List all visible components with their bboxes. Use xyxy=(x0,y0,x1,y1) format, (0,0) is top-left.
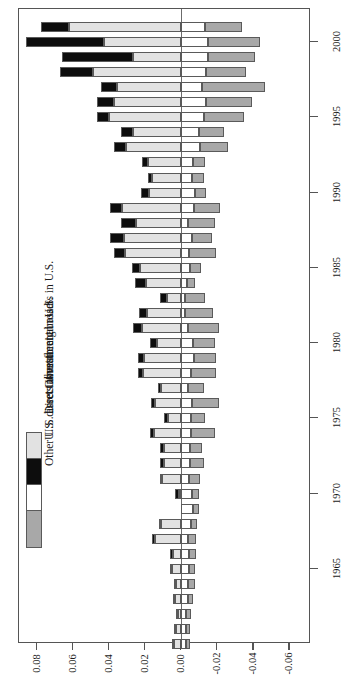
bar-segment xyxy=(192,233,212,243)
bar-segment xyxy=(181,52,208,62)
category-axis-tick xyxy=(310,41,318,42)
bar-segment xyxy=(170,549,173,559)
bar-segment xyxy=(194,203,220,213)
bar-segment xyxy=(195,188,207,198)
bar-segment xyxy=(154,428,181,438)
bar-segment xyxy=(191,413,205,423)
bar-segment xyxy=(191,428,214,438)
bar-segment xyxy=(147,308,181,318)
bar-segment xyxy=(190,458,204,468)
bar-segment xyxy=(190,263,201,273)
bar-segment xyxy=(181,263,190,273)
plot-frame xyxy=(18,8,310,643)
bar-segment xyxy=(185,293,205,303)
bar-segment xyxy=(121,127,133,137)
bar-segment xyxy=(205,22,242,32)
bar-segment xyxy=(69,22,182,32)
bar-row xyxy=(19,173,309,183)
bar-segment xyxy=(109,112,181,122)
category-axis-label: 1985 xyxy=(330,247,343,287)
bar-segment xyxy=(204,112,245,122)
bar-row xyxy=(19,218,309,228)
bar-segment xyxy=(167,293,181,303)
bar-segment xyxy=(193,157,205,167)
bar-segment xyxy=(199,127,224,137)
bar-segment xyxy=(174,579,176,589)
category-axis-tick xyxy=(310,342,318,343)
bar-segment xyxy=(181,112,204,122)
bar-segment xyxy=(155,534,181,544)
bar-segment xyxy=(194,353,217,363)
bar-segment xyxy=(181,67,205,77)
bar-row xyxy=(19,278,309,288)
bar-segment xyxy=(176,609,178,619)
bar-segment xyxy=(173,594,175,604)
bar-segment xyxy=(181,82,202,92)
category-axis-tick xyxy=(310,267,318,268)
bar-segment xyxy=(189,564,194,574)
bar-segment xyxy=(121,218,136,228)
bar-segment xyxy=(202,82,265,92)
bar-segment xyxy=(181,549,189,559)
bar-segment xyxy=(160,474,163,484)
bar-segment xyxy=(181,383,188,393)
bar-row xyxy=(19,308,309,318)
bar-row xyxy=(19,534,309,544)
bar-row xyxy=(19,142,309,152)
category-axis-tick xyxy=(310,116,318,117)
category-axis-tick xyxy=(310,192,318,193)
bar-segment xyxy=(188,218,216,228)
bar-segment xyxy=(164,458,181,468)
bar-segment xyxy=(93,67,181,77)
bar-row xyxy=(19,579,309,589)
value-axis-label: 0.08 xyxy=(30,643,43,685)
bar-segment xyxy=(189,474,200,484)
category-axis-label: 1990 xyxy=(330,172,343,212)
bar-segment xyxy=(181,443,190,453)
bar-segment xyxy=(158,383,162,393)
bar-segment xyxy=(181,504,193,514)
bar-segment xyxy=(135,278,146,288)
legend-swatch xyxy=(26,510,42,548)
value-axis-label: 0.04 xyxy=(102,643,115,685)
bar-row xyxy=(19,564,309,574)
bar-row xyxy=(19,293,309,303)
bar-row xyxy=(19,594,309,604)
bar-segment xyxy=(160,443,164,453)
bar-series-container xyxy=(19,9,309,642)
bar-row xyxy=(19,504,309,514)
bar-segment xyxy=(155,398,181,408)
bar-segment xyxy=(188,383,203,393)
bar-segment xyxy=(133,323,142,333)
bar-segment xyxy=(206,67,247,77)
bar-segment xyxy=(150,428,155,438)
bar-segment xyxy=(181,474,189,484)
bar-row xyxy=(19,549,309,559)
bar-segment xyxy=(148,157,181,167)
bar-row xyxy=(19,127,309,137)
bar-segment xyxy=(181,203,194,213)
bar-segment xyxy=(181,173,192,183)
bar-segment xyxy=(124,233,181,243)
bar-segment xyxy=(185,308,213,318)
bar-row xyxy=(19,519,309,529)
bar-segment xyxy=(190,443,202,453)
bar-segment xyxy=(175,489,179,499)
bar-segment xyxy=(97,112,110,122)
category-axis-label: 2000 xyxy=(330,22,343,62)
bar-row xyxy=(19,37,309,47)
bar-segment xyxy=(164,413,168,423)
bar-segment xyxy=(150,338,157,348)
bar-segment xyxy=(186,624,191,634)
bar-segment xyxy=(168,413,182,423)
bar-segment xyxy=(181,519,191,529)
category-axis-label: 1970 xyxy=(330,473,343,513)
bar-row xyxy=(19,443,309,453)
bar-segment xyxy=(193,504,199,514)
bar-segment xyxy=(192,173,204,183)
bar-segment xyxy=(114,142,127,152)
bar-segment xyxy=(114,97,182,107)
bar-segment xyxy=(188,594,193,604)
bar-segment xyxy=(188,323,220,333)
category-axis: 20001995199019851980197519701965 xyxy=(310,8,360,643)
